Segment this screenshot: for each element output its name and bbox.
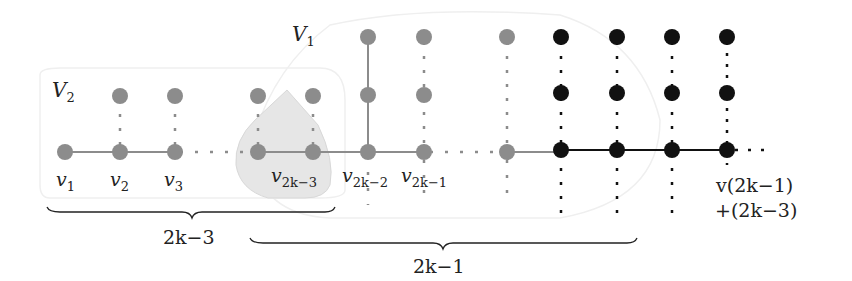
vertex-v2k-2: [360, 144, 376, 160]
vertex-label-v1: v1: [56, 170, 75, 189]
vertex-label-v2: v2: [110, 170, 129, 189]
vertex-label-v2k-2: v2k−2: [342, 166, 388, 185]
set-label-v2: V2: [52, 80, 75, 100]
brace-label-2k-1: 2k−1: [413, 257, 465, 276]
vertex-last: [719, 142, 735, 158]
brace-label-2k-3: 2k−3: [163, 228, 215, 247]
graph-diagram: V2 V1 v1 v2 v3 v2k−3 v2k−2 v2k−1 v(2k−1)…: [0, 0, 852, 281]
vertex-top: [305, 88, 321, 104]
vertex-top: [112, 88, 128, 104]
brace-2k-1: [250, 238, 637, 249]
vertex-label-v2k-1: v2k−1: [401, 166, 447, 185]
set-label-v1: V1: [292, 24, 315, 44]
vertex-black: [719, 29, 735, 45]
vertex-top: [250, 88, 266, 104]
vertex-top: [360, 87, 376, 103]
vertex-black: [609, 142, 625, 158]
vertex-black: [609, 85, 625, 101]
vertex-v2k-1: [416, 144, 432, 160]
vertex-top: [416, 29, 432, 45]
vertex-v1: [57, 144, 73, 160]
vertex-black: [664, 85, 680, 101]
vertex-gray-end: [499, 144, 515, 160]
vertex-top: [416, 87, 432, 103]
brace-2k-3: [47, 207, 335, 218]
vertex-black: [664, 142, 680, 158]
vertex-black: [553, 85, 569, 101]
black-vertices: [553, 29, 735, 158]
vertex-black: [553, 142, 569, 158]
vertex-label-last-line1: v(2k−1): [716, 176, 793, 195]
vertex-black: [609, 29, 625, 45]
vertex-label-v2k-3: v2k−3: [271, 166, 317, 185]
vertex-v2: [112, 144, 128, 160]
vertex-label-v3: v3: [164, 170, 183, 189]
vertex-v2k-3: [305, 144, 321, 160]
vertex-v2k-3-left: [250, 144, 266, 160]
graph-canvas: [0, 0, 852, 281]
vertex-v3: [167, 144, 183, 160]
vertex-black: [553, 29, 569, 45]
vertex-top: [499, 29, 515, 45]
vertex-black: [719, 85, 735, 101]
vertex-top: [167, 88, 183, 104]
vertex-label-last-line2: +(2k−3): [715, 201, 797, 220]
vertex-top: [360, 29, 376, 45]
vertex-black: [664, 29, 680, 45]
